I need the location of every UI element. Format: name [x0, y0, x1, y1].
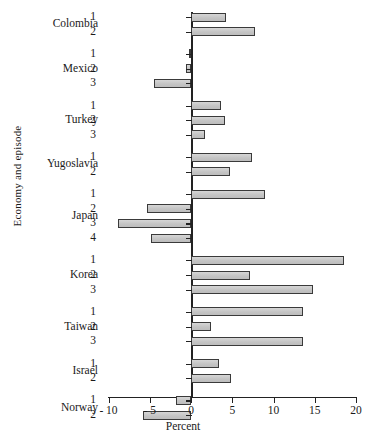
x-axis-tick: [315, 397, 316, 403]
x-axis-tick: [150, 397, 151, 403]
x-axis-tick-label: 10: [254, 404, 294, 416]
y-axis-tick: [186, 275, 192, 276]
y-axis-tick: [186, 327, 192, 328]
y-axis-tick: [186, 341, 192, 342]
y-axis-tick: [186, 209, 192, 210]
y-axis-tick: [186, 364, 192, 365]
y-axis-tick: [186, 172, 192, 173]
bar: [191, 374, 231, 383]
bar: [191, 27, 255, 36]
economy-label: Israel: [6, 364, 98, 376]
economy-label: Yugoslavia: [6, 157, 98, 169]
x-axis-tick-label: 20: [336, 404, 366, 416]
bar: [191, 322, 211, 331]
episode-label: 1: [84, 187, 96, 199]
bar: [191, 153, 252, 162]
y-axis-tick: [186, 312, 192, 313]
bar: [191, 337, 303, 346]
economy-label: Mexico: [6, 62, 98, 74]
bar: [191, 285, 313, 294]
y-axis-tick: [186, 260, 192, 261]
x-axis-tick: [232, 397, 233, 403]
y-axis-tick: [186, 378, 192, 379]
y-axis-tick: [186, 194, 192, 195]
y-axis-tick: [186, 400, 192, 401]
economy-label: Norway: [6, 401, 98, 413]
bar: [191, 190, 265, 199]
bar: [191, 307, 303, 316]
bar: [118, 219, 191, 228]
episode-label: 3: [84, 76, 96, 88]
x-axis-tick-label: - 10: [89, 404, 129, 416]
economy-label: Korea: [6, 268, 98, 280]
y-axis-tick: [186, 135, 192, 136]
category-label-column: 12Colombia123Mexico123Turkey12Yugoslavia…: [0, 0, 98, 440]
episode-label: 4: [84, 231, 96, 243]
x-axis-title: Percent: [0, 420, 366, 432]
y-axis-tick: [186, 106, 192, 107]
bar: [191, 13, 226, 22]
episode-label: 1: [84, 47, 96, 59]
y-axis-tick: [186, 32, 192, 33]
bar-chart: Economy and episode 12Colombia123Mexico1…: [0, 0, 366, 440]
episode-label: 1: [84, 99, 96, 111]
y-axis-tick: [186, 54, 192, 55]
y-axis-tick: [186, 415, 192, 416]
episode-label: 1: [84, 253, 96, 265]
x-axis-tick: [109, 397, 110, 403]
y-axis-tick: [186, 290, 192, 291]
bar: [191, 130, 205, 139]
economy-label: Taiwan: [6, 320, 98, 332]
y-axis-tick: [186, 120, 192, 121]
x-axis-tick: [274, 397, 275, 403]
x-axis-tick-label: 15: [295, 404, 335, 416]
episode-label: 3: [84, 283, 96, 295]
y-axis-tick: [186, 69, 192, 70]
bar: [191, 256, 344, 265]
bar: [191, 167, 230, 176]
y-axis-tick: [186, 238, 192, 239]
y-axis-tick: [186, 157, 192, 158]
y-axis-tick: [186, 17, 192, 18]
episode-label: 1: [84, 305, 96, 317]
episode-label: 3: [84, 128, 96, 140]
economy-label: Turkey: [6, 113, 98, 125]
x-axis-tick-label: - 5: [130, 404, 170, 416]
bar: [191, 359, 219, 368]
economy-label: Japan: [6, 209, 98, 221]
economy-label: Colombia: [6, 17, 98, 29]
bar: [191, 101, 221, 110]
bar: [191, 116, 225, 125]
y-axis-tick: [186, 83, 192, 84]
x-axis-tick: [356, 397, 357, 403]
episode-label: 3: [84, 334, 96, 346]
bar: [191, 271, 250, 280]
bar: [147, 204, 191, 213]
y-axis-tick: [186, 223, 192, 224]
x-axis-tick-label: 5: [212, 404, 252, 416]
